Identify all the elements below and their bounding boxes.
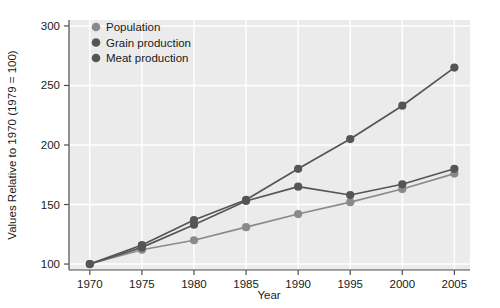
data-point-grain-production bbox=[294, 183, 302, 191]
x-tick-label: 1980 bbox=[181, 278, 207, 290]
data-point-grain-production bbox=[398, 180, 406, 188]
legend-dot-population-icon bbox=[92, 23, 101, 32]
chart-figure: 100150200250300 197019751980198519901995… bbox=[0, 0, 500, 308]
y-tick-label: 100 bbox=[41, 258, 60, 270]
data-point-meat-production bbox=[190, 216, 198, 224]
legend-label-0: Population bbox=[106, 21, 160, 33]
data-point-population bbox=[242, 223, 250, 231]
x-tick-label: 1975 bbox=[129, 278, 155, 290]
data-point-meat-production bbox=[294, 165, 302, 173]
data-point-meat-production bbox=[242, 196, 250, 204]
x-tick-label: 1970 bbox=[77, 278, 103, 290]
x-tick-label: 1990 bbox=[285, 278, 311, 290]
data-point-meat-production bbox=[346, 135, 354, 143]
data-point-meat-production bbox=[138, 241, 146, 249]
x-tick-label: 1995 bbox=[337, 278, 363, 290]
y-tick-label: 250 bbox=[41, 79, 60, 91]
x-tick-label: 2005 bbox=[442, 278, 468, 290]
data-point-population bbox=[294, 210, 302, 218]
x-tick-label: 2000 bbox=[390, 278, 416, 290]
data-point-meat-production bbox=[398, 102, 406, 110]
data-point-grain-production bbox=[346, 191, 354, 199]
y-tick-label: 150 bbox=[41, 199, 60, 211]
data-point-meat-production bbox=[450, 64, 458, 72]
data-point-population bbox=[190, 236, 198, 244]
y-tick-label: 300 bbox=[41, 20, 60, 32]
legend-dot-grain-icon bbox=[92, 38, 101, 47]
data-point-population bbox=[346, 198, 354, 206]
x-axis-title: Year bbox=[257, 289, 280, 301]
legend-label-2: Meat production bbox=[106, 52, 188, 64]
y-tick-label: 200 bbox=[41, 139, 60, 151]
y-axis-title: Values Relative to 1970 (1979 = 100) bbox=[6, 50, 18, 240]
data-point-meat-production bbox=[86, 260, 94, 268]
legend-label-1: Grain production bbox=[106, 37, 191, 49]
data-point-grain-production bbox=[450, 165, 458, 173]
legend-dot-meat-icon bbox=[92, 54, 101, 63]
line-chart-svg: 100150200250300 197019751980198519901995… bbox=[0, 0, 500, 308]
x-tick-label: 1985 bbox=[233, 278, 259, 290]
